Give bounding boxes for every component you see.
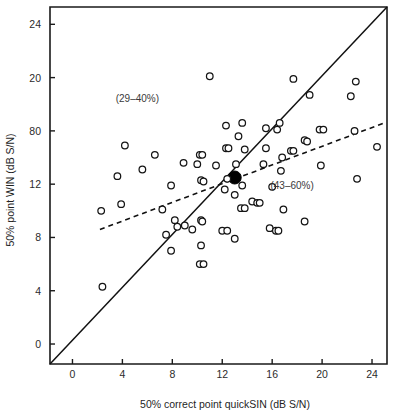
data-point xyxy=(224,227,231,234)
x-axis-tick-label: 12 xyxy=(216,368,228,380)
data-point xyxy=(239,120,246,127)
scatter-plot-figure: 04812162024 24208012840 (29–40%)(43–60%)… xyxy=(0,0,406,416)
data-point xyxy=(318,162,325,169)
x-axis-tick-label: 24 xyxy=(366,368,378,380)
y-axis-tick-label: 20 xyxy=(29,72,41,84)
data-point xyxy=(223,122,230,129)
data-point xyxy=(301,218,308,225)
regression-line xyxy=(100,123,385,230)
x-axis-tick-label: 20 xyxy=(316,368,328,380)
data-point xyxy=(163,231,170,238)
plot-annotations: (29–40%)(43–60%) xyxy=(116,93,314,192)
data-points xyxy=(98,73,380,290)
data-point xyxy=(98,208,105,215)
data-point xyxy=(118,201,125,208)
data-point xyxy=(172,217,179,224)
data-point xyxy=(198,242,205,249)
data-point xyxy=(194,161,201,168)
x-axis-title: 50% correct point quickSIN (dB S/N) xyxy=(140,398,310,410)
data-point xyxy=(231,192,238,199)
x-axis-tick-label: 16 xyxy=(266,368,278,380)
data-point xyxy=(139,166,146,173)
data-point xyxy=(260,161,267,168)
data-point xyxy=(213,162,220,169)
y-axis-title: 50% point WIN (dB S/N) xyxy=(4,133,16,246)
data-point xyxy=(239,182,246,189)
group-annotation-label: (43–60%) xyxy=(270,180,313,191)
data-point xyxy=(200,261,207,268)
y-axis-tick-label: 8 xyxy=(35,231,41,243)
data-point xyxy=(168,247,175,254)
data-point xyxy=(235,133,242,140)
data-point xyxy=(206,73,213,80)
data-point xyxy=(278,168,285,175)
chart-canvas: 04812162024 24208012840 (29–40%)(43–60%)… xyxy=(0,0,406,416)
data-point xyxy=(304,138,311,145)
data-point xyxy=(276,120,283,127)
data-point xyxy=(152,152,159,159)
data-point xyxy=(221,186,228,193)
y-axis-tick-label: 4 xyxy=(35,285,41,297)
data-point xyxy=(279,154,286,161)
y-axis-tick-label: 24 xyxy=(29,18,41,30)
data-point xyxy=(374,144,381,151)
x-axis-tick-label: 0 xyxy=(70,368,76,380)
data-point xyxy=(266,225,273,232)
y-axis-tick-label: 0 xyxy=(35,338,41,350)
y-axis-tick-label: 12 xyxy=(29,178,41,190)
data-point xyxy=(320,126,327,133)
data-point xyxy=(168,182,175,189)
data-point xyxy=(241,146,248,153)
data-point xyxy=(122,142,129,149)
data-point xyxy=(263,125,270,132)
data-point xyxy=(159,206,166,213)
data-point xyxy=(290,76,297,83)
data-point xyxy=(231,235,238,242)
x-axis-tick-label: 4 xyxy=(119,368,125,380)
data-point xyxy=(199,152,206,159)
data-point xyxy=(225,145,232,152)
y-axis-tick-labels: 24208012840 xyxy=(29,18,41,350)
x-axis-tick-labels: 04812162024 xyxy=(70,368,378,380)
data-point xyxy=(174,223,181,230)
group-annotation-label: (29–40%) xyxy=(116,93,159,104)
data-point xyxy=(290,148,297,155)
data-point xyxy=(352,78,359,85)
data-point xyxy=(241,205,248,212)
y-axis-tick-label: 80 xyxy=(29,125,41,137)
data-point xyxy=(306,92,313,99)
data-point xyxy=(351,128,358,135)
data-point xyxy=(263,145,270,152)
data-point xyxy=(348,93,355,100)
data-point xyxy=(233,161,240,168)
data-point xyxy=(275,227,282,234)
data-point xyxy=(354,176,361,183)
data-point xyxy=(189,226,196,233)
data-point xyxy=(274,126,281,133)
data-point xyxy=(99,283,106,290)
data-point xyxy=(280,206,287,213)
data-point xyxy=(224,176,231,183)
data-point xyxy=(199,218,206,225)
data-point xyxy=(114,173,121,180)
data-point xyxy=(180,160,187,167)
x-axis-tick-label: 8 xyxy=(169,368,175,380)
reference-lines xyxy=(50,7,387,364)
data-point xyxy=(200,178,207,185)
data-point xyxy=(256,200,263,207)
data-point xyxy=(182,222,189,229)
